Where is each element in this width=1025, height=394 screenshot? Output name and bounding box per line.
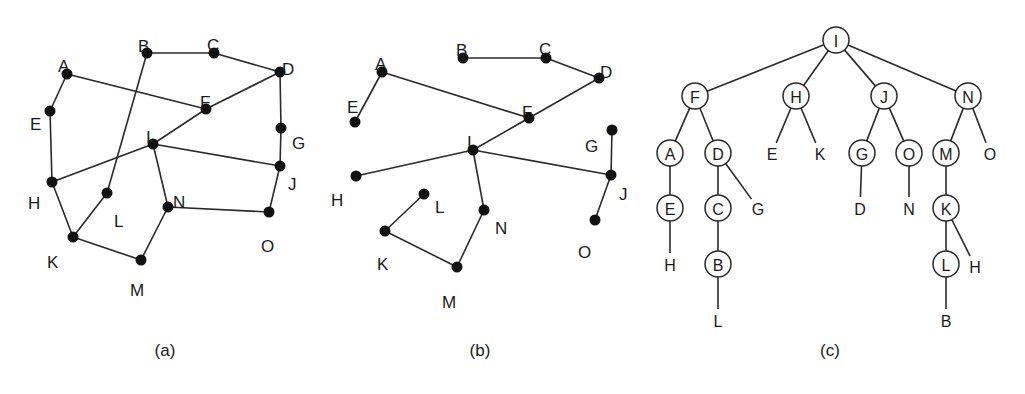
edge-h-i [356, 150, 473, 176]
tree-node-e1-label: E [767, 146, 778, 163]
panel-b-spanning-tree: ABCDEFGHIJKLMNO [331, 40, 628, 312]
edge-m-n [457, 210, 484, 267]
node-f-label: F [200, 93, 210, 112]
node-n-label: N [495, 219, 507, 238]
edge-j-o [595, 175, 611, 220]
edge-b-l [107, 53, 147, 193]
edge-a-e [50, 74, 67, 111]
edge-f-i [473, 118, 529, 150]
tree-node-a-label: A [665, 146, 676, 163]
tree-edge-j-o [889, 108, 904, 141]
tree-node-g-label: G [856, 146, 868, 163]
edge-k-m [385, 231, 457, 267]
node-e-label: E [347, 98, 358, 117]
edge-g-j [611, 130, 612, 175]
tree-edge-n-o1 [973, 108, 986, 143]
edge-c-d [214, 53, 280, 72]
tree-edge-i-f [707, 45, 824, 91]
node-o-dot [590, 215, 601, 226]
tree-node-k-label: K [941, 201, 952, 218]
tree-node-g1-label: G [752, 201, 764, 218]
tree-node-l1-label: L [714, 313, 723, 330]
edge-e-h [50, 111, 52, 182]
tree-node-b-label: B [713, 257, 724, 274]
node-g-dot [607, 125, 618, 136]
tree-node-h1-label: H [664, 257, 676, 274]
node-g-label: G [292, 134, 305, 153]
tree-node-n1-label: N [903, 201, 915, 218]
node-g-dot [276, 123, 287, 134]
node-l-label: L [435, 198, 444, 217]
node-k-label: K [47, 253, 59, 272]
node-b-label: B [456, 41, 467, 60]
node-n-label: N [173, 193, 185, 212]
tree-edge-j-g [867, 108, 880, 141]
tree-node-o-label: O [903, 146, 915, 163]
graph-figure: ABCDEFGHIJKLMNO ABCDEFGHIJKLMNO IFHJNADE… [0, 0, 1025, 394]
node-m-dot [452, 262, 463, 273]
node-o-label: O [261, 237, 274, 256]
tree-edge-g-d1 [860, 166, 861, 197]
caption-b: (b) [470, 341, 491, 360]
node-j-label: J [619, 185, 628, 204]
edge-d-g [280, 72, 281, 128]
edge-g-j [280, 128, 281, 166]
node-l-dot [102, 188, 113, 199]
node-n-dot [479, 205, 490, 216]
panel-c-sink-tree: IFHJNADEKGOMOECGDNKHBLHLB [657, 27, 996, 330]
tree-edge-i-n [848, 45, 956, 91]
tree-node-o1-label: O [984, 146, 996, 163]
edge-a-e [355, 72, 382, 122]
node-k-label: K [377, 255, 389, 274]
node-j-label: J [288, 175, 297, 194]
tree-node-l-label: L [942, 257, 951, 274]
tree-node-m-label: M [939, 146, 952, 163]
edge-m-n [141, 207, 168, 260]
tree-edge-h-e1 [776, 108, 791, 143]
node-j-dot [275, 161, 286, 172]
edge-i-n [473, 150, 484, 210]
edge-d-f [529, 78, 599, 118]
tree-node-i-label: I [834, 33, 838, 50]
edge-i-j [153, 144, 280, 166]
node-j-dot [606, 170, 617, 181]
node-m-label: M [130, 281, 144, 300]
node-e-label: E [30, 115, 41, 134]
node-k-dot [68, 232, 79, 243]
caption-c: (c) [820, 341, 840, 360]
tree-node-j-label: J [880, 89, 888, 106]
node-o-label: O [578, 243, 591, 262]
tree-node-h2-label: H [969, 259, 981, 276]
tree-node-h-label: H [790, 89, 802, 106]
edge-k-m [73, 237, 141, 260]
node-h-dot [351, 171, 362, 182]
tree-node-e-label: E [665, 201, 676, 218]
node-d-label: D [282, 60, 294, 79]
edge-d-f [206, 72, 280, 109]
caption-a: (a) [155, 341, 176, 360]
tree-edge-d-g1 [726, 164, 752, 200]
node-c-label: C [539, 40, 551, 59]
node-d-label: D [600, 63, 612, 82]
edge-a-f [382, 72, 529, 118]
tree-node-k1-label: K [815, 146, 826, 163]
node-n-dot [163, 202, 174, 213]
node-e-dot [350, 117, 361, 128]
tree-edge-f-a [675, 108, 690, 141]
node-l-label: L [114, 212, 123, 231]
edge-j-o [269, 166, 280, 212]
edge-f-i [153, 109, 206, 144]
edge-i-n [153, 144, 168, 207]
tree-edge-h-k1 [801, 108, 816, 143]
tree-edge-f-d [700, 108, 713, 141]
node-h-dot [47, 177, 58, 188]
tree-node-d1-label: D [854, 201, 866, 218]
node-k-dot [380, 226, 391, 237]
node-i-label: I [146, 128, 151, 147]
edge-h-k [52, 182, 73, 237]
tree-node-b1-label: B [941, 313, 952, 330]
tree-node-n-label: N [962, 89, 974, 106]
node-o-dot [264, 207, 275, 218]
tree-node-f-label: F [690, 89, 700, 106]
node-h-label: H [331, 191, 343, 210]
